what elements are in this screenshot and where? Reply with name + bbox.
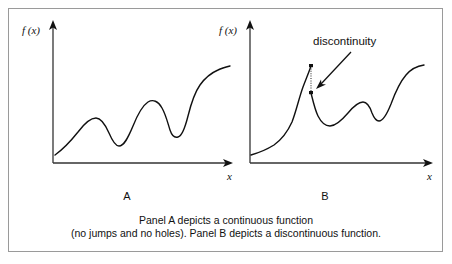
panel-b-y-axis xyxy=(246,20,254,163)
figure-caption: Panel A depicts a continuous function (n… xyxy=(71,214,381,239)
panel-a-curve xyxy=(55,66,230,155)
discontinuity-lower-endpoint xyxy=(309,91,313,94)
panel-b-curve-right xyxy=(311,65,424,126)
panel-a-y-axis-label: f (x) xyxy=(22,24,40,37)
panel-b-letter: B xyxy=(321,190,328,202)
panel-b: f (x) x discontinuity xyxy=(219,20,433,182)
discontinuity-label: discontinuity xyxy=(313,35,377,47)
discontinuity-upper-endpoint xyxy=(309,64,313,67)
panel-a-letter: A xyxy=(123,190,131,202)
caption-line-1: Panel A depicts a continuous function xyxy=(139,214,313,226)
figure-canvas: f (x) x f (x) x xyxy=(0,0,452,264)
panel-b-curve-left xyxy=(251,66,311,155)
caption-line-2: (no jumps and no holes). Panel B depicts… xyxy=(71,227,381,239)
panel-a: f (x) x xyxy=(22,20,233,182)
panel-a-x-axis xyxy=(53,159,233,167)
panel-b-x-axis xyxy=(250,159,433,167)
panel-b-x-axis-label: x xyxy=(426,170,432,182)
discontinuity-pointer-arrow xyxy=(316,52,351,89)
figure-screenshot: f (x) x f (x) x xyxy=(0,0,452,264)
panel-a-y-axis xyxy=(49,20,57,163)
panel-a-x-axis-label: x xyxy=(226,170,232,182)
panel-b-y-axis-label: f (x) xyxy=(219,24,237,37)
